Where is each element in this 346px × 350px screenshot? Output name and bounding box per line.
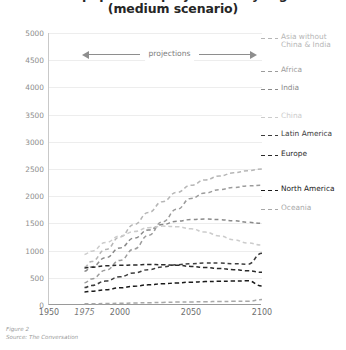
legend-item[interactable]: Latin America [261,130,332,139]
series-line [85,185,263,282]
chart-title-line2: (medium scenario) [0,2,346,16]
legend-item[interactable]: Oceania [261,204,311,213]
y-tick-label: 2000 [25,192,44,201]
legend-dash-icon [261,86,278,93]
legend-label: China [281,112,302,120]
series-line [85,169,263,267]
legend-item[interactable]: Europe [261,150,307,159]
x-tick-label: 1975 [74,308,94,317]
legend-dash-icon [261,68,278,75]
legend-label: Oceania [281,204,311,212]
y-tick-label: 1500 [25,219,44,228]
legend-label: Europe [281,150,307,158]
figure-number: Figure 2 [6,326,78,334]
x-tick-label: 1950 [39,308,59,317]
legend-label: North America [281,185,335,193]
chart-page: World population projections by region (… [0,0,346,350]
legend-label: Africa [281,66,302,74]
y-tick-label: 5000 [25,29,44,38]
legend-label: India [281,84,299,92]
x-tick-label: 2000 [110,308,130,317]
y-tick-label: 500 [30,273,44,282]
y-tick-label: 3500 [25,110,44,119]
y-tick-label: 1000 [25,246,44,255]
legend-dash-icon [261,114,278,121]
legend-dash-icon [261,35,278,42]
series-line [85,300,263,304]
legend-item[interactable]: Asia without China & India [261,33,331,50]
figure-footer: Figure 2 Source: The Conversation [6,326,78,341]
series-lines [49,33,262,305]
legend-label: Latin America [281,130,332,138]
y-tick-label: 2500 [25,165,44,174]
legend-item[interactable]: North America [261,185,335,194]
legend-dash-icon [261,152,278,159]
legend-dash-icon [261,187,278,194]
series-line [85,226,263,254]
series-line [85,281,263,292]
series-line [85,253,263,287]
legend-label: Asia without China & India [281,33,331,50]
x-tick-label: 2050 [181,308,201,317]
legend-item[interactable]: China [261,112,302,121]
legend-item[interactable]: Africa [261,66,302,75]
plot-area: 0500100015002000250030003500400045005000… [48,33,261,305]
legend-item[interactable]: India [261,84,299,93]
figure-source: Source: The Conversation [6,334,78,342]
chart-title: World population projections by region (… [0,0,346,16]
y-tick-label: 4000 [25,83,44,92]
legend-dash-icon [261,206,278,213]
chart-legend: Asia without China & IndiaAfricaIndiaChi… [261,33,346,313]
y-tick-label: 3000 [25,137,44,146]
y-tick-label: 4500 [25,56,44,65]
legend-dash-icon [261,132,278,139]
